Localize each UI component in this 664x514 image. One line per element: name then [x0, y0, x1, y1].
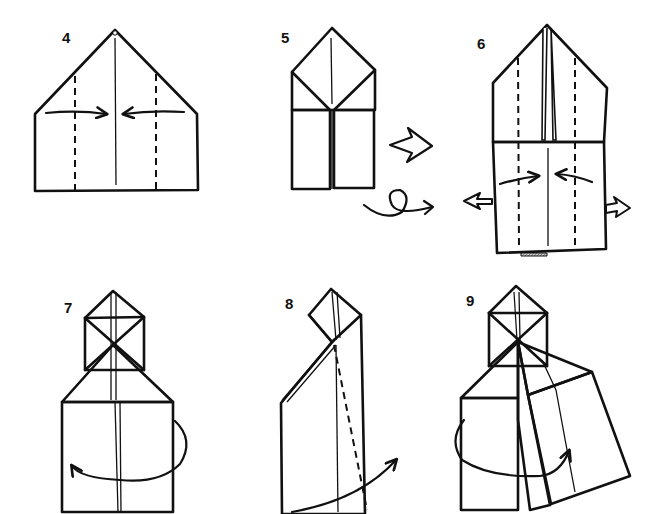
step-number-5: 5 — [281, 29, 289, 46]
step-number-6: 6 — [477, 35, 485, 52]
bottom-edge — [521, 253, 547, 256]
step-7: 7 — [62, 291, 186, 512]
center-crease — [331, 38, 332, 104]
flap-right — [334, 110, 374, 188]
fold-edge-left — [292, 72, 330, 110]
swinging-flap — [528, 372, 630, 504]
fold-edge-right — [334, 70, 375, 110]
swing-around-arrow-icon — [455, 420, 569, 476]
step-8: 8 — [281, 289, 396, 514]
fold-arrow-left-icon — [124, 111, 184, 114]
step-5: 5 — [281, 28, 433, 216]
valley-fold-line-left — [518, 58, 519, 250]
center-line-1 — [115, 402, 118, 512]
diagonal-edge-2 — [287, 345, 336, 402]
turn-over-icon — [364, 190, 432, 216]
center-pleat-right — [551, 28, 556, 140]
pleat-line-2 — [519, 292, 520, 340]
center-line — [336, 345, 338, 512]
colored-top — [292, 28, 375, 110]
step-4: 4 — [35, 29, 198, 191]
center-crease — [115, 38, 116, 185]
step-number-7: 7 — [64, 299, 72, 316]
pleat-line-1 — [332, 292, 336, 340]
white-body-left — [461, 398, 518, 510]
colored-column — [85, 291, 144, 370]
step-9: 9 — [455, 286, 630, 510]
apex-mark — [113, 31, 117, 35]
top-edge — [85, 317, 144, 318]
origami-diagram: 4 5 6 — [0, 0, 664, 514]
center-line-2 — [120, 402, 121, 512]
turn-behind-arrow-icon — [72, 421, 186, 481]
pull-out-arrow-right-icon — [606, 197, 630, 217]
colored-shoulders — [62, 345, 173, 402]
step-6: 6 — [464, 25, 630, 256]
pull-out-arrow-left-icon — [464, 193, 492, 209]
center-pleat-left — [542, 28, 547, 140]
diagonal-edge-1 — [283, 340, 334, 400]
next-step-arrow-icon — [390, 128, 432, 162]
step-number-4: 4 — [62, 29, 71, 46]
pleat-line-1 — [514, 292, 517, 340]
flap-left — [292, 110, 330, 189]
step-number-9: 9 — [466, 292, 474, 309]
pleat-line-2 — [337, 292, 340, 338]
colored-top — [493, 25, 607, 142]
white-bottom — [493, 142, 606, 253]
step-number-8: 8 — [285, 295, 293, 312]
swing-arrow-icon — [292, 460, 396, 512]
